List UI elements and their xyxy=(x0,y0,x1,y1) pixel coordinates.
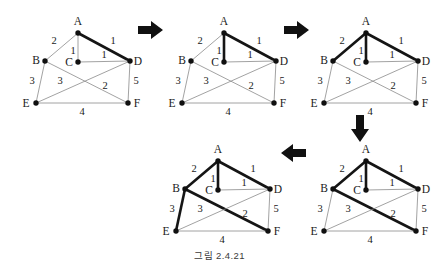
edge-weights-step-2: 2 1 1 1 3 2 3 5 4 xyxy=(175,35,284,117)
weight-A-C: 1 xyxy=(216,45,221,56)
weight-E-F: 4 xyxy=(219,234,225,245)
node-label-F: F xyxy=(274,225,280,237)
node-E xyxy=(173,228,178,233)
node-label-B: B xyxy=(172,182,180,194)
graph-step-2: A B C D E F 2 1 1 1 3 2 3 5 4 xyxy=(158,12,286,120)
edge-C-D xyxy=(366,61,418,62)
node-D xyxy=(415,186,420,191)
edges-step-3 xyxy=(324,33,418,103)
edge-B-E xyxy=(36,61,45,103)
node-label-D: D xyxy=(280,55,288,67)
weight-A-C: 1 xyxy=(70,45,75,56)
node-label-A: A xyxy=(362,143,371,155)
edge-D-F xyxy=(416,189,418,231)
edge-D-F xyxy=(416,61,418,103)
weight-A-B: 2 xyxy=(197,35,202,46)
weight-B-E: 3 xyxy=(175,75,180,86)
weight-A-C: 1 xyxy=(210,173,215,184)
edge-B-E xyxy=(182,61,191,103)
edge-weights-step-1: 2 1 1 1 3 2 3 5 4 xyxy=(29,35,138,117)
weight-C-D: 1 xyxy=(241,177,246,188)
node-B xyxy=(330,186,335,191)
node-A xyxy=(75,30,80,35)
node-label-B: B xyxy=(320,182,328,194)
edge-B-E xyxy=(324,189,333,231)
weight-D-F: 5 xyxy=(133,75,138,86)
weight-A-D: 1 xyxy=(398,35,403,46)
graph-step-5: A B C D E F 2 1 1 1 3 2 3 5 4 xyxy=(152,140,280,248)
weight-A-B: 2 xyxy=(191,163,196,174)
node-D xyxy=(127,58,132,63)
weight-A-D: 1 xyxy=(250,163,255,174)
node-label-F: F xyxy=(422,225,428,237)
node-label-A: A xyxy=(220,15,229,27)
node-E xyxy=(33,100,38,105)
node-label-A: A xyxy=(362,15,371,27)
edge-C-D xyxy=(366,189,418,190)
edges-step-5 xyxy=(176,161,270,231)
node-label-B: B xyxy=(32,54,40,66)
node-F xyxy=(125,100,130,105)
weight-A-D: 1 xyxy=(398,163,403,174)
weight-B-F: 2 xyxy=(248,80,253,91)
edge-C-D xyxy=(224,61,276,62)
edge-D-F xyxy=(274,61,276,103)
weight-A-C: 1 xyxy=(358,45,363,56)
node-label-C: C xyxy=(353,56,361,68)
node-label-F: F xyxy=(422,97,428,109)
node-C xyxy=(363,187,368,192)
weight-A-B: 2 xyxy=(339,35,344,46)
node-F xyxy=(413,100,418,105)
weight-D-E: 3 xyxy=(57,75,62,86)
weight-B-E: 3 xyxy=(317,75,322,86)
node-label-E: E xyxy=(310,97,317,109)
weight-E-F: 4 xyxy=(367,234,373,245)
node-label-A: A xyxy=(214,143,223,155)
node-F xyxy=(413,228,418,233)
node-D xyxy=(273,58,278,63)
node-label-F: F xyxy=(280,97,286,109)
node-C xyxy=(215,187,220,192)
weight-A-C: 1 xyxy=(358,173,363,184)
node-E xyxy=(321,100,326,105)
graph-step-4: A B C D E F 2 1 1 1 3 2 3 5 4 xyxy=(300,140,428,248)
node-label-E: E xyxy=(22,97,29,109)
graph-step-1: A B C D E F 2 1 1 1 3 2 3 5 4 xyxy=(12,12,140,120)
node-label-F: F xyxy=(134,97,140,109)
node-A xyxy=(221,30,226,35)
edge-weights-step-4: 2 1 1 1 3 2 3 5 4 xyxy=(317,163,426,245)
figure-caption: 그림 2.4.21 xyxy=(0,248,439,262)
weight-A-B: 2 xyxy=(339,163,344,174)
nodes-step-5 xyxy=(173,158,272,233)
weight-C-D: 1 xyxy=(389,49,394,60)
node-D xyxy=(267,186,272,191)
node-label-D: D xyxy=(274,183,282,195)
weight-B-E: 3 xyxy=(29,75,34,86)
weight-B-F: 2 xyxy=(390,208,395,219)
weight-C-D: 1 xyxy=(247,49,252,60)
edge-B-E xyxy=(324,61,333,103)
weight-D-E: 3 xyxy=(345,75,350,86)
node-F xyxy=(265,228,270,233)
node-B xyxy=(188,58,193,63)
weight-D-F: 5 xyxy=(421,75,426,86)
node-B xyxy=(42,58,47,63)
node-label-A: A xyxy=(74,15,83,27)
weight-B-F: 2 xyxy=(242,208,247,219)
edges-step-4 xyxy=(324,161,418,231)
edges-step-1 xyxy=(36,33,130,103)
node-F xyxy=(271,100,276,105)
edge-B-E xyxy=(176,189,185,231)
weight-B-E: 3 xyxy=(169,203,174,214)
edge-D-F xyxy=(128,61,130,103)
node-label-E: E xyxy=(310,225,317,237)
node-C xyxy=(363,59,368,64)
weight-A-B: 2 xyxy=(51,35,56,46)
node-label-B: B xyxy=(320,54,328,66)
weight-D-F: 5 xyxy=(273,203,278,214)
edge-C-D xyxy=(218,189,270,190)
weight-E-F: 4 xyxy=(79,106,85,117)
node-C xyxy=(75,59,80,64)
node-label-D: D xyxy=(422,183,430,195)
edge-weights-step-3: 2 1 1 1 3 2 3 5 4 xyxy=(317,35,426,117)
